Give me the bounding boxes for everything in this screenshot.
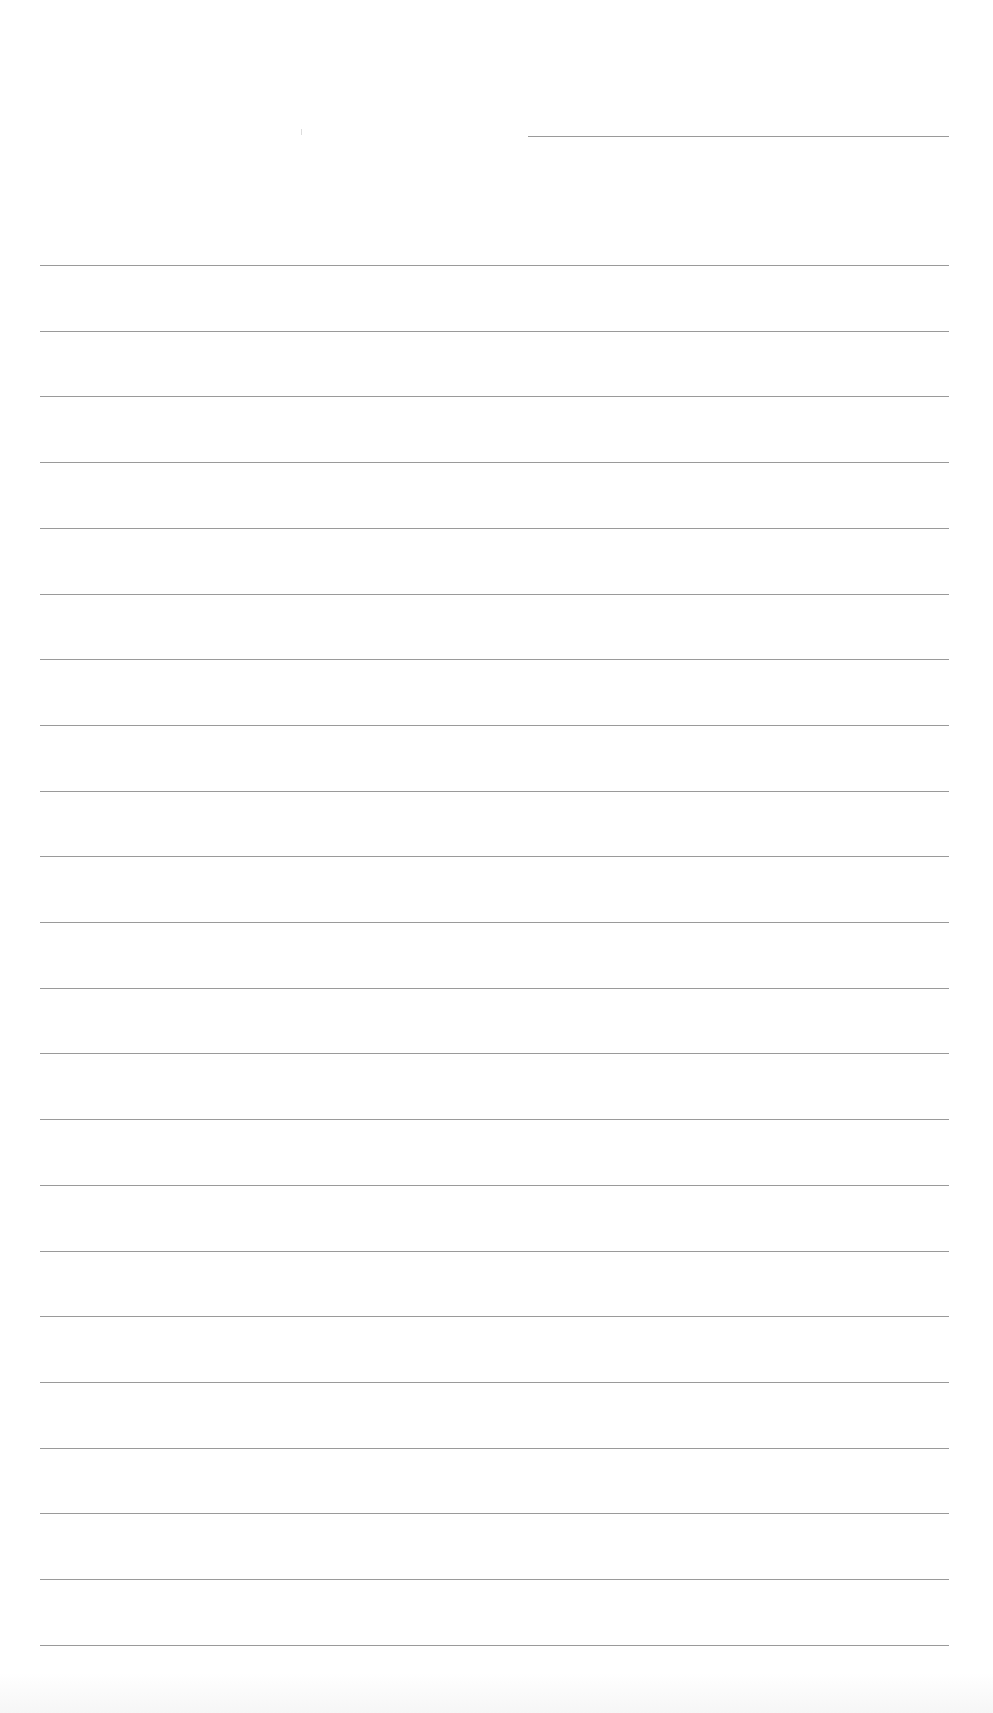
ruled-line bbox=[40, 528, 949, 529]
ruled-line bbox=[40, 265, 949, 266]
lined-paper-page bbox=[0, 0, 993, 1713]
ruled-line bbox=[40, 1053, 949, 1054]
ruled-line bbox=[40, 331, 949, 332]
ruled-line bbox=[40, 1119, 949, 1120]
ruled-line bbox=[40, 1448, 949, 1449]
ruled-line bbox=[40, 1316, 949, 1317]
page-bottom-edge bbox=[0, 1673, 993, 1713]
ruled-line bbox=[40, 725, 949, 726]
ruled-line bbox=[40, 791, 949, 792]
ruled-line bbox=[40, 1645, 949, 1646]
header-name-line bbox=[528, 136, 949, 137]
ruled-line bbox=[40, 1251, 949, 1252]
ruled-line bbox=[40, 922, 949, 923]
ruled-line bbox=[40, 659, 949, 660]
ruled-line bbox=[40, 1579, 949, 1580]
ruled-line bbox=[40, 594, 949, 595]
ruled-line bbox=[40, 988, 949, 989]
ruled-line bbox=[40, 1513, 949, 1514]
ruled-line bbox=[40, 856, 949, 857]
ruled-line bbox=[40, 396, 949, 397]
ruled-line bbox=[40, 462, 949, 463]
ruled-line bbox=[40, 1382, 949, 1383]
ruled-line bbox=[40, 1185, 949, 1186]
scan-mark bbox=[301, 129, 302, 135]
